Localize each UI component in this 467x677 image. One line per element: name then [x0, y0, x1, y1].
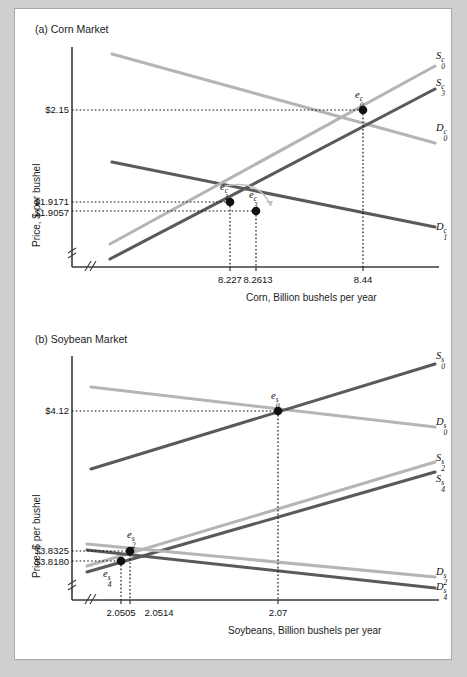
curve-label-D1c: Dc1: [436, 221, 444, 232]
curve-label-S4s-sub: 4: [441, 485, 445, 494]
corn-shift-arrow-head-icon: [266, 201, 273, 206]
curve-label-D1c-base: D: [436, 221, 444, 232]
soybean-ytick-label-1: $3.8325: [15, 545, 69, 556]
curve-label-D0s-sub: 0: [444, 428, 448, 437]
curve-label-S0s: Ss0: [436, 350, 441, 361]
panel-soybean-market: (b) Soybean Market Price, $ per bushel: [15, 323, 453, 661]
curve-label-D0c-base: D: [436, 122, 444, 133]
curve-D0s: [91, 387, 435, 427]
point-label-e0c-sub: 0: [360, 101, 364, 110]
curve-label-S2s-sub: 2: [441, 464, 445, 473]
curve-S3c: [110, 89, 435, 259]
corn-x-axis-break-icon: [85, 261, 96, 271]
panel-corn-market: (a) Corn Market Price, $ per bushel: [15, 9, 453, 329]
curve-label-S0s-sub: 0: [441, 362, 445, 371]
point-label-e0s: es0: [271, 390, 276, 401]
point-label-e1c-sub: 1: [225, 193, 229, 202]
curve-D4s: [87, 550, 435, 588]
corn-x-axis-label: Corn, Billion bushels per year: [246, 292, 377, 303]
curve-label-S0c: Sc0: [436, 50, 441, 61]
corn-xtick-label-1: 8.2613: [228, 274, 288, 285]
soybean-ytick-label-0: $4.12: [15, 405, 69, 416]
curve-label-D0s-base: D: [436, 416, 444, 427]
curve-label-S4s: Ss4: [436, 473, 441, 484]
soybean-ytick-label-2: $3.8180: [15, 556, 69, 567]
soybean-xtick-label-1: 2.0514: [129, 607, 189, 618]
point-label-e3c: ec3: [249, 189, 254, 200]
corn-xtick-label-2: 8.44: [333, 274, 393, 285]
corn-ytick-label-2: $1.9057: [15, 207, 69, 218]
curve-label-D4s-sub: 4: [444, 593, 448, 602]
point-label-e1c: ec1: [220, 181, 225, 192]
point-label-e2s-sub: 2: [132, 541, 136, 550]
curve-label-D2s-base: D: [436, 566, 444, 577]
point-label-e4s-sub: 4: [108, 580, 112, 589]
soybean-xtick-label-2: 2.07: [248, 607, 308, 618]
curve-label-S3c-sub: 3: [441, 89, 445, 98]
point-label-e2s: es2: [127, 529, 132, 540]
point-label-e0c: ec0: [355, 89, 360, 100]
point-e4s: [117, 557, 126, 566]
curve-D2s: [87, 544, 435, 577]
point-label-e3c-sub: 3: [254, 201, 258, 210]
curve-label-D0c: Dc0: [436, 122, 444, 133]
point-label-e0s-sub: 0: [276, 402, 280, 411]
corn-ytick-label-1: $1.9171: [15, 196, 69, 207]
curve-label-S0c-sub: 0: [441, 62, 445, 71]
soybean-x-axis-label: Soybeans, Billion bushels per year: [228, 625, 381, 636]
curve-label-S3c: Sc3: [436, 77, 441, 88]
curve-label-D4s-base: D: [436, 581, 444, 592]
curve-S0s: [91, 364, 435, 469]
soybean-x-axis-break-icon: [85, 594, 96, 604]
curve-label-D1c-sub: 1: [444, 233, 448, 242]
corn-ytick-label-0: $2.15: [15, 104, 69, 115]
figure-page: (a) Corn Market Price, $ per bushel: [0, 0, 467, 677]
curve-label-D0c-sub: 0: [444, 134, 448, 143]
curve-label-S2s: Ss2: [436, 452, 441, 463]
curve-label-D4s: Ds4: [436, 581, 444, 592]
point-label-e4s: es4: [103, 568, 108, 579]
curve-label-D0s: Ds0: [436, 416, 444, 427]
curve-D0c: [112, 54, 435, 143]
curve-label-D2s: Ds2: [436, 566, 444, 577]
soybean-plot-svg: [15, 323, 453, 661]
figure-card: (a) Corn Market Price, $ per bushel: [14, 8, 452, 660]
